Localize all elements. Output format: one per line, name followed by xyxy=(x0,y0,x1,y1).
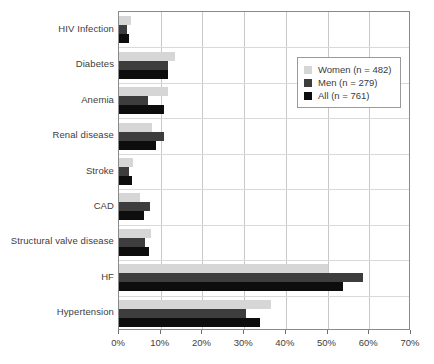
bar-women xyxy=(119,16,131,25)
bar-all xyxy=(119,211,144,220)
x-axis-tick-mark xyxy=(243,330,244,334)
x-axis-tick-label: 60% xyxy=(359,337,378,348)
y-axis-label: HIV Infection xyxy=(2,23,114,34)
bar-all xyxy=(119,318,260,327)
bar-group xyxy=(119,154,409,189)
x-axis-tick-mark xyxy=(118,330,119,334)
figure-caption xyxy=(6,357,426,364)
bar-women xyxy=(119,158,133,167)
bar-women xyxy=(119,87,168,96)
legend-label: Men (n = 279) xyxy=(318,77,377,88)
y-axis-label: CAD xyxy=(2,200,114,211)
bar-men xyxy=(119,167,129,176)
bar-all xyxy=(119,282,343,291)
legend-swatch-women-icon xyxy=(304,66,312,74)
bar-men xyxy=(119,238,145,247)
bar-men xyxy=(119,309,246,318)
x-axis-tick-mark xyxy=(285,330,286,334)
y-axis-label: HF xyxy=(2,271,114,282)
bar-all xyxy=(119,105,164,114)
bar-chart: HIV InfectionDiabetesAnemiaRenal disease… xyxy=(0,0,434,364)
bar-all xyxy=(119,247,149,256)
bar-women xyxy=(119,123,152,132)
bar-women xyxy=(119,229,151,238)
y-axis-label: Renal disease xyxy=(2,129,114,140)
bar-group xyxy=(119,12,409,47)
y-axis-label: Structural valve disease xyxy=(2,235,114,246)
legend-label: Women (n = 482) xyxy=(318,64,392,75)
bar-men xyxy=(119,25,127,34)
x-axis-tick-label: 0% xyxy=(111,337,125,348)
bar-women xyxy=(119,52,175,61)
y-axis-category-labels: HIV InfectionDiabetesAnemiaRenal disease… xyxy=(0,11,114,330)
legend-item-women: Women (n = 482) xyxy=(304,63,392,76)
x-axis-tick-label: 10% xyxy=(150,337,169,348)
bar-group xyxy=(119,296,409,331)
bar-women xyxy=(119,264,328,273)
x-axis: 0%10%20%30%40%50%60%70% xyxy=(118,330,410,358)
x-axis-tick-mark xyxy=(327,330,328,334)
bar-group xyxy=(119,118,409,153)
x-axis-tick-mark xyxy=(201,330,202,334)
x-axis-tick-label: 70% xyxy=(400,337,419,348)
bar-group xyxy=(119,189,409,224)
x-axis-tick-mark xyxy=(160,330,161,334)
y-axis-label: Hypertension xyxy=(2,306,114,317)
x-axis-tick-mark xyxy=(368,330,369,334)
legend-label: All (n = 761) xyxy=(318,90,370,101)
chart-legend: Women (n = 482)Men (n = 279)All (n = 761… xyxy=(297,57,401,108)
bar-women xyxy=(119,300,271,309)
bar-all xyxy=(119,176,132,185)
bar-men xyxy=(119,132,164,141)
bar-group xyxy=(119,260,409,295)
y-axis-label: Diabetes xyxy=(2,58,114,69)
bar-men xyxy=(119,61,168,70)
x-axis-tick-mark xyxy=(410,330,411,334)
bar-women xyxy=(119,193,140,202)
bar-men xyxy=(119,202,150,211)
y-axis-label: Anemia xyxy=(2,94,114,105)
bar-all xyxy=(119,141,156,150)
legend-item-men: Men (n = 279) xyxy=(304,76,392,89)
x-axis-tick-label: 50% xyxy=(317,337,336,348)
x-axis-tick-label: 20% xyxy=(192,337,211,348)
legend-swatch-all-icon xyxy=(304,92,312,100)
legend-swatch-men-icon xyxy=(304,79,312,87)
x-axis-tick-label: 40% xyxy=(275,337,294,348)
x-axis-tick-label: 30% xyxy=(234,337,253,348)
bar-men xyxy=(119,273,363,282)
legend-item-all: All (n = 761) xyxy=(304,89,392,102)
bar-group xyxy=(119,225,409,260)
bar-all xyxy=(119,34,129,43)
bar-men xyxy=(119,96,148,105)
y-axis-label: Stroke xyxy=(2,165,114,176)
bar-all xyxy=(119,70,168,79)
